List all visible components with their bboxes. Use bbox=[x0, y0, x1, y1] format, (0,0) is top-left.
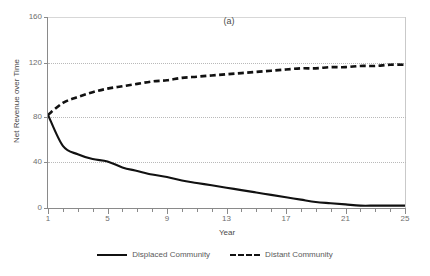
x-tick-mark-22 bbox=[360, 209, 361, 212]
legend-swatch-solid-line-icon bbox=[97, 254, 127, 256]
series-lines bbox=[48, 17, 405, 208]
legend-label-displaced-community: Displaced Community bbox=[132, 251, 210, 259]
series-line-displaced-community bbox=[48, 115, 405, 206]
chart-legend: Displaced Community Distant Community bbox=[0, 251, 430, 259]
plot-frame-right bbox=[405, 17, 406, 208]
legend-swatch-dashed-line-icon bbox=[230, 254, 260, 256]
x-tick-label-9: 9 bbox=[152, 215, 182, 223]
x-tick-mark-2 bbox=[63, 209, 64, 212]
plot-area bbox=[48, 17, 405, 208]
x-tick-mark-15 bbox=[256, 209, 257, 212]
x-tick-mark-23 bbox=[375, 209, 376, 212]
x-tick-label-17: 17 bbox=[271, 215, 301, 223]
y-tick-label-160: 160 bbox=[8, 13, 42, 21]
legend-item-displaced-community[interactable]: Displaced Community bbox=[97, 251, 210, 259]
legend-item-distant-community[interactable]: Distant Community bbox=[230, 251, 333, 259]
x-tick-mark-12 bbox=[212, 209, 213, 212]
x-tick-mark-14 bbox=[241, 209, 242, 212]
x-tick-mark-6 bbox=[122, 209, 123, 212]
x-tick-mark-10 bbox=[182, 209, 183, 212]
chart-figure: 160 120 80 40 0 Net Revenue over Time 15… bbox=[0, 0, 430, 276]
x-tick-mark-20 bbox=[331, 209, 332, 212]
legend-label-distant-community: Distant Community bbox=[265, 251, 333, 259]
x-tick-label-21: 21 bbox=[331, 215, 361, 223]
x-tick-label-5: 5 bbox=[93, 215, 123, 223]
x-tick-mark-3 bbox=[78, 209, 79, 212]
y-tick-label-0: 0 bbox=[8, 204, 42, 212]
x-tick-mark-16 bbox=[271, 209, 272, 212]
x-tick-mark-4 bbox=[93, 209, 94, 212]
x-tick-mark-11 bbox=[197, 209, 198, 212]
x-tick-mark-24 bbox=[390, 209, 391, 212]
x-tick-mark-8 bbox=[152, 209, 153, 212]
y-axis-title: Net Revenue over Time bbox=[13, 26, 21, 176]
x-axis-title: Year bbox=[48, 228, 406, 237]
x-tick-mark-7 bbox=[137, 209, 138, 212]
x-tick-label-1: 1 bbox=[33, 215, 63, 223]
x-tick-mark-19 bbox=[316, 209, 317, 212]
x-tick-label-25: 25 bbox=[390, 215, 420, 223]
series-line-distant-community bbox=[48, 65, 405, 115]
x-tick-mark-18 bbox=[301, 209, 302, 212]
x-tick-label-13: 13 bbox=[212, 215, 242, 223]
